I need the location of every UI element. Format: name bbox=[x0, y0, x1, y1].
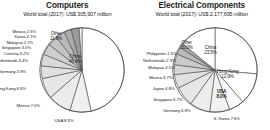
chart-title-electrical-components: Electrical Components bbox=[135, 1, 270, 10]
label-china-pct: 46.4% bbox=[62, 59, 88, 64]
chart-title-computers: Computers bbox=[0, 1, 135, 10]
label-netherlands-electrical: Netherlands 2.3% bbox=[119, 59, 176, 64]
label-czechia-computers: Czechia 3.2% bbox=[0, 52, 29, 57]
label-germany-computers: Germany 4.9% bbox=[0, 70, 26, 75]
label-germany-electrical: Germany 6.8% bbox=[143, 109, 191, 114]
label-hong-kong-electrical: Hong Kong 12.9% bbox=[213, 69, 243, 79]
label-usa-electrical: USA 8.0% bbox=[211, 89, 233, 99]
label-hong-kong-computers: Hong Kong 6.8% bbox=[0, 87, 26, 92]
pie-chart-figure: Computers World total (2017): US$ 305,90… bbox=[0, 0, 269, 130]
label-s-korea-electrical: S. Korea 7.6% bbox=[214, 117, 266, 122]
label-mexico-electrical: Mexico 3.7% bbox=[125, 76, 173, 81]
label-usa-computers: USA 8.3% bbox=[46, 119, 82, 124]
label-other-pct: 20.0% bbox=[175, 45, 199, 50]
chart-panel-computers: Computers World total (2017): US$ 305,90… bbox=[0, 0, 135, 130]
label-china-electrical: China 23.5% bbox=[199, 45, 223, 55]
label-other-pct: 11.8% bbox=[44, 36, 68, 41]
label-usa-pct: 8.0% bbox=[211, 94, 233, 99]
label-japan-electrical: Japan 4.8% bbox=[129, 87, 175, 92]
label-other-computers: Other 11.8% bbox=[44, 31, 68, 41]
label-mexico-bottom-computers: Mexico 7.0% bbox=[0, 104, 40, 109]
label-philippines-electrical: Philippines 1.5% bbox=[121, 52, 177, 57]
chart-panel-electrical-components: Electrical Components World total (2017)… bbox=[135, 0, 270, 130]
chart-subtitle-electrical-components: World total (2017): US$ 2,177,695 millio… bbox=[135, 11, 270, 17]
label-china-pct: 23.5% bbox=[199, 50, 223, 55]
label-hong-kong-pct: 12.9% bbox=[213, 74, 243, 79]
label-china-computers: China 46.4% bbox=[62, 54, 88, 64]
label-other-electrical: Other 20.0% bbox=[175, 40, 199, 50]
label-netherlands-computers: Netherlands 3.4% bbox=[0, 59, 28, 64]
label-malaysia-electrical: Malaysia 3.1% bbox=[123, 66, 175, 71]
label-singapore-electrical: Singapore 5.7% bbox=[133, 98, 183, 103]
chart-subtitle-computers: World total (2017): US$ 305,907 million bbox=[0, 11, 135, 17]
